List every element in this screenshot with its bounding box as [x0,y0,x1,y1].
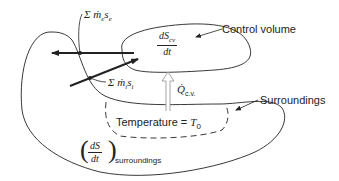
surroundings-entropy-rate: dS dt [88,141,102,164]
cv-entropy-rate: dScv dt [157,31,177,57]
inlet-flow-leader [90,78,106,82]
surroundings-pointer [236,100,258,110]
exit-flow-leader [79,14,82,53]
control-volume-label: Control volume [222,24,296,35]
surroundings-rate-subscript: surroundings [115,157,161,165]
temperature-label: Temperature = T0 [116,117,201,131]
heat-transfer-label: Q̇c.v. [177,84,195,97]
control-volume-pointer [196,29,222,37]
exit-entropy-flow-label: Σ ṁese [84,9,112,23]
heat-transfer-arrow [162,72,174,111]
surroundings-label: Surroundings [260,95,325,106]
inlet-entropy-flow-label: Σ ṁisi [108,77,133,91]
